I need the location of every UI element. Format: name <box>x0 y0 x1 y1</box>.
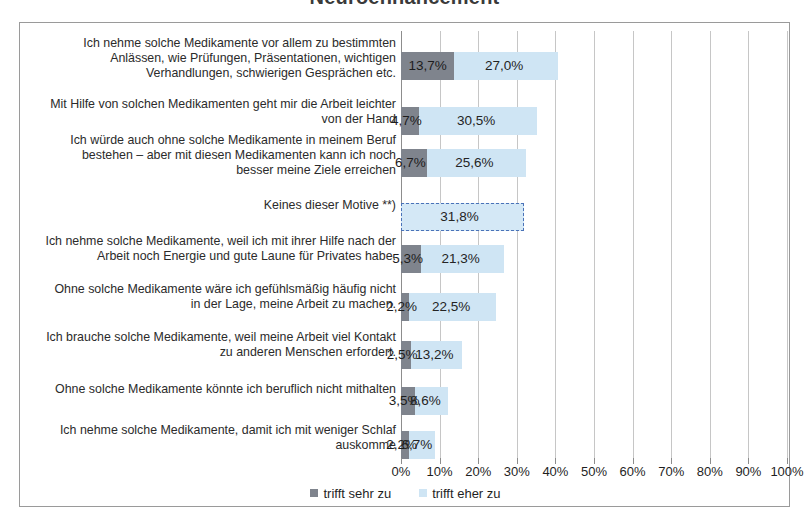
category-label-line: Arbeit noch Energie und gute Laune für P… <box>18 249 396 264</box>
legend-swatch-icon <box>310 489 318 497</box>
category-label-line: Ich würde auch ohne solche Medikamente i… <box>18 133 396 148</box>
value-label-trifft-eher-zu: 21,3% <box>442 245 480 273</box>
category-label-line: Mit Hilfe von solchen Medikamenten geht … <box>18 97 396 112</box>
category-label: Ich nehme solche Medikamente, weil ich m… <box>18 234 399 264</box>
value-label-trifft-eher-zu: 30,5% <box>457 107 495 135</box>
category-label: Ohne solche Medikamente wäre ich gefühls… <box>18 282 399 312</box>
x-axis-tick-labels: 0%10%20%30%40%50%60%70%80%90%100% <box>401 464 787 482</box>
category-axis-labels: Ich nehme solche Medikamente vor allem z… <box>20 23 401 466</box>
category-label-line: Ohne solche Medikamente könnte ich beruf… <box>18 382 396 397</box>
x-axis-label-40: 40% <box>542 464 568 479</box>
category-label: Ich nehme solche Medikamente, damit ich … <box>18 423 399 453</box>
value-label-trifft-eher-zu: 31,8% <box>440 203 478 231</box>
value-label-trifft-eher-zu: 22,5% <box>432 293 470 321</box>
value-label-trifft-sehr-zu: 4,7% <box>391 107 422 135</box>
category-label: Ich würde auch ohne solche Medikamente i… <box>18 133 399 178</box>
x-axis-label-60: 60% <box>620 464 646 479</box>
category-label: Mit Hilfe von solchen Medikamenten geht … <box>18 97 399 127</box>
value-label-trifft-sehr-zu: 13,7% <box>408 52 446 80</box>
x-axis-label-30: 30% <box>504 464 530 479</box>
bar-row[interactable]: 2,2%6,7% <box>401 431 787 459</box>
bar-row[interactable]: 4,7%30,5% <box>401 107 787 135</box>
bar-row[interactable]: 2,2%22,5% <box>401 293 787 321</box>
category-label: Ohne solche Medikamente könnte ich beruf… <box>18 382 399 397</box>
value-label-trifft-eher-zu: 6,7% <box>401 431 432 459</box>
legend-label: trifft sehr zu <box>323 486 391 501</box>
category-label-line: von der Hand <box>18 112 396 127</box>
x-axis-label-50: 50% <box>581 464 607 479</box>
category-label-line: Ich nehme solche Medikamente vor allem z… <box>18 36 396 51</box>
category-label: Ich brauche solche Medikamente, weil mei… <box>18 330 399 360</box>
x-axis-label-70: 70% <box>658 464 684 479</box>
x-axis-label-0: 0% <box>392 464 411 479</box>
bar-row[interactable]: 13,7%27,0% <box>401 52 787 80</box>
bar-row[interactable]: 6,7%25,6% <box>401 149 787 177</box>
bar-row[interactable]: 3,5%8,6% <box>401 387 787 415</box>
value-label-trifft-sehr-zu: 5,3% <box>392 245 423 273</box>
x-axis-label-20: 20% <box>465 464 491 479</box>
legend-label: trifft eher zu <box>432 486 500 501</box>
category-label-line: auskomme <box>18 438 396 453</box>
x-axis-label-90: 90% <box>735 464 761 479</box>
bar-row[interactable]: 5,3%21,3% <box>401 245 787 273</box>
category-label-line: Ohne solche Medikamente wäre ich gefühls… <box>18 282 396 297</box>
x-axis-label-10: 10% <box>427 464 453 479</box>
chart-frame: Ich nehme solche Medikamente vor allem z… <box>19 22 790 507</box>
value-label-trifft-eher-zu: 13,2% <box>415 341 453 369</box>
category-label-line: besser meine Ziele erreichen <box>18 163 396 178</box>
legend-item-trifft-eher-zu[interactable]: trifft eher zu <box>419 485 500 501</box>
value-label-trifft-sehr-zu: 2,2% <box>386 293 417 321</box>
value-label-trifft-eher-zu: 25,6% <box>455 149 493 177</box>
category-label: Ich nehme solche Medikamente vor allem z… <box>18 36 399 81</box>
category-label-line: bestehen – aber mit diesen Medikamenten … <box>18 148 396 163</box>
category-label-line: Verhandlungen, schwierigen Gesprächen et… <box>18 66 396 81</box>
legend: trifft sehr zutrifft eher zu <box>20 485 791 501</box>
value-label-trifft-sehr-zu: 6,7% <box>395 149 426 177</box>
legend-swatch-icon <box>419 489 427 497</box>
value-label-trifft-sehr-zu: 2,5% <box>387 341 418 369</box>
legend-item-trifft-sehr-zu[interactable]: trifft sehr zu <box>310 485 391 501</box>
x-axis-label-100: 100% <box>770 464 803 479</box>
x-axis-label-80: 80% <box>697 464 723 479</box>
category-label-line: in der Lage, meine Arbeit zu machen. <box>18 297 396 312</box>
value-label-trifft-eher-zu: 8,6% <box>410 387 441 415</box>
value-label-trifft-eher-zu: 27,0% <box>485 52 523 80</box>
category-label-line: Ich brauche solche Medikamente, weil mei… <box>18 330 396 345</box>
category-label-line: zu anderen Menschen erfordert. <box>18 345 396 360</box>
category-label-line: Keines dieser Motive **) <box>18 198 396 213</box>
gridline-100 <box>787 31 788 458</box>
category-label-line: Ich nehme solche Medikamente, damit ich … <box>18 423 396 438</box>
category-label: Keines dieser Motive **) <box>18 198 399 213</box>
plot-area: 13,7%27,0%4,7%30,5%6,7%25,6%31,8%5,3%21,… <box>401 31 787 458</box>
category-label-line: Ich nehme solche Medikamente, weil ich m… <box>18 234 396 249</box>
page-title: Neuroenhancement <box>0 0 809 9</box>
bar-row[interactable]: 31,8% <box>401 203 787 231</box>
bar-row[interactable]: 2,5%13,2% <box>401 341 787 369</box>
category-label-line: Anlässen, wie Prüfungen, Präsentationen,… <box>18 51 396 66</box>
